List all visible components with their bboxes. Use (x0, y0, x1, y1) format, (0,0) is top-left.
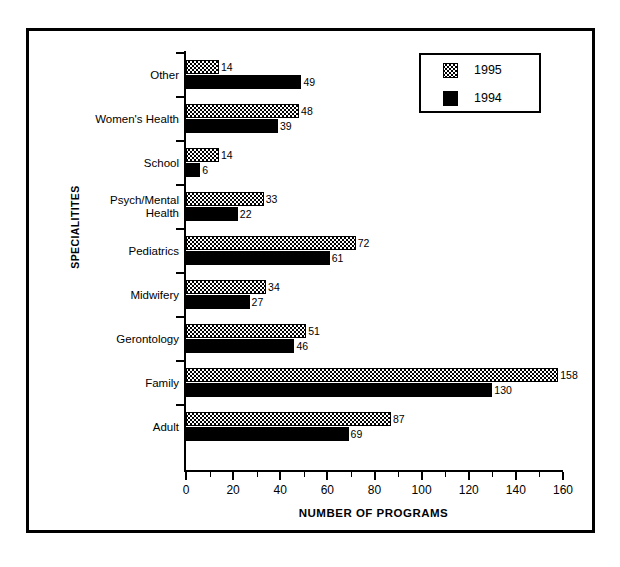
bar-1995: 51 (186, 324, 306, 338)
y-axis-tick (176, 228, 185, 230)
legend-item-1994: 1994 (421, 85, 539, 111)
bar-value-label: 130 (494, 384, 512, 396)
bar-value-label: 69 (351, 428, 363, 440)
x-axis-tick-label: 60 (307, 483, 347, 497)
bar-value-label: 51 (308, 325, 320, 337)
y-axis-tick (176, 316, 185, 318)
legend: 1995 1994 (419, 53, 541, 113)
y-axis-tick (176, 272, 185, 274)
bar-value-label: 27 (252, 296, 264, 308)
legend-swatch-1995-icon (443, 63, 458, 78)
bar-value-label: 49 (303, 76, 315, 88)
category-label: School (29, 157, 179, 170)
bar-value-label: 158 (560, 369, 578, 381)
bar-value-label: 87 (393, 413, 405, 425)
bar-group: Adult8769 (29, 405, 592, 449)
x-axis-tick-label: 80 (355, 483, 395, 497)
bar-1994: 39 (186, 119, 278, 133)
x-axis-tick-minor (257, 472, 258, 477)
bar-group: Pediatrics7261 (29, 229, 592, 273)
category-label: Adult (29, 421, 179, 434)
legend-label-1995: 1995 (474, 63, 502, 77)
category-label: Psych/MentalHealth (29, 194, 179, 220)
x-axis-tick-major (468, 472, 470, 480)
x-axis-tick-label: 0 (166, 483, 206, 497)
x-axis-title: NUMBER OF PROGRAMS (184, 507, 563, 519)
x-axis-tick-label: 100 (402, 483, 442, 497)
bar-1994: 61 (186, 251, 330, 265)
bar-value-label: 14 (221, 149, 233, 161)
plot-area: SPECIALITITES Other1449Women's Health483… (29, 31, 592, 530)
y-axis-tick (176, 96, 185, 98)
bar-value-label: 39 (280, 120, 292, 132)
x-axis-tick-label: 140 (496, 483, 536, 497)
bar-group: Psych/MentalHealth3322 (29, 185, 592, 229)
bar-1995: 33 (186, 192, 264, 206)
bar-1994: 46 (186, 339, 294, 353)
x-axis-tick-major (374, 472, 376, 480)
x-axis-tick-major (232, 472, 234, 480)
legend-item-1995: 1995 (421, 57, 539, 83)
category-label: Women's Health (29, 113, 179, 126)
x-axis-tick-label: 120 (449, 483, 489, 497)
bar-value-label: 6 (202, 164, 208, 176)
bar-1995: 72 (186, 236, 356, 250)
x-axis-tick-label: 160 (543, 483, 583, 497)
chart-frame: SPECIALITITES Other1449Women's Health483… (26, 28, 595, 533)
bar-1994: 49 (186, 75, 301, 89)
bar-value-label: 22 (240, 208, 252, 220)
legend-label-1994: 1994 (474, 91, 502, 105)
y-axis-tick (176, 184, 185, 186)
x-axis-tick-label: 20 (213, 483, 253, 497)
y-axis-tick (176, 52, 185, 54)
bar-group: Midwifery3427 (29, 273, 592, 317)
bar-1994: 6 (186, 163, 200, 177)
category-label: Midwifery (29, 289, 179, 302)
legend-swatch-1994-icon (443, 91, 458, 106)
category-label: Other (29, 69, 179, 82)
y-axis-tick (176, 404, 185, 406)
x-axis-tick-major (421, 472, 423, 480)
bar-value-label: 34 (268, 281, 280, 293)
bar-1995: 34 (186, 280, 266, 294)
category-label: Family (29, 377, 179, 390)
x-axis-tick-minor (492, 472, 493, 477)
bar-group: School146 (29, 141, 592, 185)
x-axis-tick-major (326, 472, 328, 480)
bar-1994: 130 (186, 383, 492, 397)
bar-value-label: 61 (332, 252, 344, 264)
bar-1994: 27 (186, 295, 250, 309)
y-axis-tick (176, 140, 185, 142)
bar-1994: 69 (186, 427, 349, 441)
bar-value-label: 46 (296, 340, 308, 352)
bar-group: Gerontology5146 (29, 317, 592, 361)
x-axis-tick-major (515, 472, 517, 480)
bar-1995: 48 (186, 104, 299, 118)
x-axis-tick-minor (445, 472, 446, 477)
x-axis-tick-minor (210, 472, 211, 477)
x-axis-tick-label: 40 (260, 483, 300, 497)
bar-value-label: 33 (266, 193, 278, 205)
bar-1995: 158 (186, 368, 558, 382)
bar-value-label: 14 (221, 61, 233, 73)
x-axis-tick-minor (351, 472, 352, 477)
bar-value-label: 72 (358, 237, 370, 249)
category-label: Gerontology (29, 333, 179, 346)
category-label: Pediatrics (29, 245, 179, 258)
bar-1995: 87 (186, 412, 391, 426)
bar-1995: 14 (186, 148, 219, 162)
y-axis-tick (176, 360, 185, 362)
x-axis-tick-minor (539, 472, 540, 477)
x-axis-tick-minor (304, 472, 305, 477)
bar-group: Family158130 (29, 361, 592, 405)
bar-value-label: 48 (301, 105, 313, 117)
x-axis-tick-major (279, 472, 281, 480)
bar-1995: 14 (186, 60, 219, 74)
bar-1994: 22 (186, 207, 238, 221)
x-axis-tick-major (185, 472, 187, 480)
x-axis-tick-major (562, 472, 564, 480)
x-axis-tick-minor (398, 472, 399, 477)
